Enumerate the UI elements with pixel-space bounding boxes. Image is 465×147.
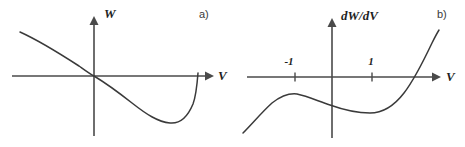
panel-a-curve (20, 32, 198, 123)
panel-a-annotation-label: a) (199, 8, 209, 20)
panel-a-x-axis-arrowhead (205, 72, 214, 81)
panel-b-annotation-label: b) (437, 8, 447, 20)
panel-b-x-axis-label: V (446, 69, 456, 84)
panel-b-x-axis-arrowhead (432, 73, 441, 82)
panel-b-tick-label-minus-one: -1 (284, 55, 293, 67)
panel-b-curve (243, 30, 439, 133)
panel-b-y-axis-label: dW/dV (341, 8, 379, 23)
panel-b-y-axis-arrowhead (328, 18, 337, 27)
panel-b: -1 1 V dW/dV b) (243, 8, 456, 138)
panel-a-x-axis-label: V (218, 68, 228, 83)
physics-figure-svg: V W a) -1 1 V dW/dV b) (0, 0, 465, 147)
panel-b-tick-label-one: 1 (368, 55, 374, 67)
panel-a-y-axis-label: W (104, 6, 117, 21)
figure-container: V W a) -1 1 V dW/dV b) (0, 0, 465, 147)
panel-a-y-axis-arrowhead (90, 16, 99, 25)
panel-a: V W a) (12, 6, 228, 136)
